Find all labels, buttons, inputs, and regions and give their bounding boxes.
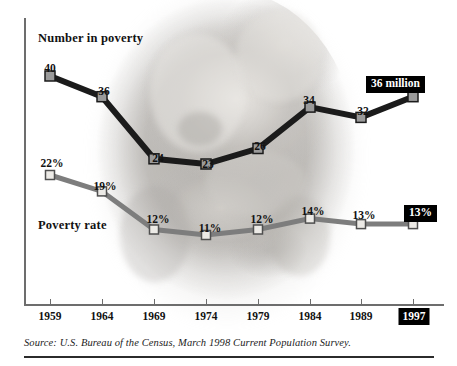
value-label-number-1969: 24	[152, 152, 164, 164]
value-label-rate-1979: 12%	[251, 213, 274, 225]
x-axis-label-1979: 1979	[247, 310, 270, 322]
marker-rate-1969	[150, 225, 159, 234]
x-axis-label-1964: 1964	[91, 310, 114, 322]
value-label-number-1984: 34	[303, 94, 315, 106]
poverty-chart-figure: Number in poverty Poverty rate 40 36 24 …	[0, 0, 457, 366]
series-label-poverty-rate: Poverty rate	[38, 218, 107, 233]
x-axis-label-1969: 1969	[143, 310, 166, 322]
marker-number-1997	[408, 92, 418, 102]
value-label-number-1979: 26	[254, 140, 266, 152]
value-label-number-1989: 32	[357, 105, 369, 117]
value-label-rate-1984: 14%	[302, 205, 325, 217]
x-axis-label-1984: 1984	[299, 310, 322, 322]
x-axis-label-1989: 1989	[350, 310, 373, 322]
value-label-rate-1974: 11%	[199, 222, 221, 234]
value-label-number-1974: 23	[202, 158, 214, 170]
value-label-rate-1964: 19%	[94, 180, 117, 192]
callout-number-in-poverty-1997: 36 million	[366, 76, 425, 93]
value-label-number-1959: 40	[44, 62, 56, 74]
bottom-rule	[24, 356, 434, 358]
series-label-number-in-poverty: Number in poverty	[38, 31, 143, 46]
value-label-rate-1989: 13%	[353, 209, 376, 221]
marker-rate-1959	[46, 171, 55, 180]
value-label-number-1964: 36	[98, 85, 110, 97]
marker-rate-1979	[254, 225, 263, 234]
series-layer	[0, 0, 457, 366]
value-label-rate-1969: 12%	[147, 213, 170, 225]
source-note: Source: U.S. Bureau of the Census, March…	[24, 337, 351, 348]
value-label-rate-1959: 22%	[41, 157, 64, 169]
x-axis-label-1959: 1959	[39, 310, 62, 322]
x-axis-label-1997: 1997	[399, 308, 430, 325]
callout-poverty-rate-1997: 13%	[404, 205, 437, 222]
x-axis-label-1974: 1974	[195, 310, 218, 322]
